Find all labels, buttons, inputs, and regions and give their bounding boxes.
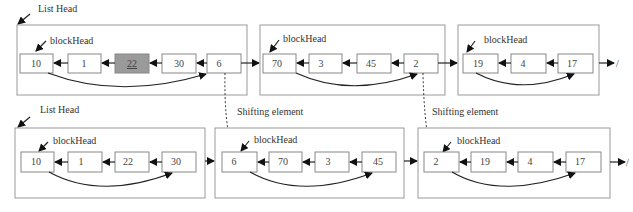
node-value: 17 xyxy=(567,58,577,69)
node xyxy=(207,54,241,73)
node-value: 1 xyxy=(82,58,87,69)
node-value: 3 xyxy=(326,156,331,167)
top-row: List Head blockHead 10 1 22 30 6 xyxy=(17,3,619,95)
block-head-label: blockHead xyxy=(53,135,96,146)
node-value: 45 xyxy=(366,58,376,69)
node-value: 1 xyxy=(79,156,84,167)
block-head-label: blockHead xyxy=(283,33,326,44)
top-block-3: blockHead 19 4 17 xyxy=(458,25,599,95)
node-value: 4 xyxy=(521,58,526,69)
list-head-label-bottom: List Head xyxy=(40,104,79,115)
node-value: 2 xyxy=(434,156,439,167)
list-head-label-top: List Head xyxy=(38,3,77,14)
node-value: 70 xyxy=(278,156,288,167)
node-value: 6 xyxy=(217,58,222,69)
node-value: 22 xyxy=(123,156,133,167)
null-marker: / xyxy=(616,58,619,69)
block-head-label: blockHead xyxy=(457,135,500,146)
top-block-2: blockHead 70 3 45 2 xyxy=(260,25,445,95)
bottom-block-1: blockHead 10 1 22 30 xyxy=(15,128,205,198)
node-value: 17 xyxy=(575,156,585,167)
shifting-element-label: Shifting element xyxy=(432,106,499,117)
node-value: 10 xyxy=(31,156,41,167)
list-head-arrow-icon xyxy=(18,117,30,127)
node-value: 2 xyxy=(414,58,419,69)
node-value: 45 xyxy=(373,156,383,167)
list-head-arrow-icon xyxy=(18,14,30,24)
bottom-block-3: blockHead 2 19 4 17 xyxy=(418,128,610,198)
node-value: 30 xyxy=(171,156,181,167)
null-marker: / xyxy=(626,157,629,168)
node-value: 6 xyxy=(232,156,237,167)
node-value: 19 xyxy=(473,58,483,69)
node-value: 19 xyxy=(480,156,490,167)
node-value: 70 xyxy=(272,58,282,69)
node-value: 10 xyxy=(31,58,41,69)
block-head-label: blockHead xyxy=(484,34,527,45)
shifting-element-label: Shifting element xyxy=(237,106,304,117)
node-value: 30 xyxy=(174,58,184,69)
node-value: 4 xyxy=(528,156,533,167)
top-block-1: blockHead 10 1 22 30 6 xyxy=(17,25,247,95)
node-value: 3 xyxy=(319,58,324,69)
block-head-label: blockHead xyxy=(254,134,297,145)
bottom-block-2: blockHead 6 70 3 45 xyxy=(215,128,404,198)
bottom-row: List Head blockHead 10 1 22 30 blockHead xyxy=(15,104,629,198)
node-value: 22 xyxy=(127,58,137,69)
linked-list-diagram: List Head blockHead 10 1 22 30 6 xyxy=(0,0,633,212)
block-head-label: blockHead xyxy=(50,35,93,46)
